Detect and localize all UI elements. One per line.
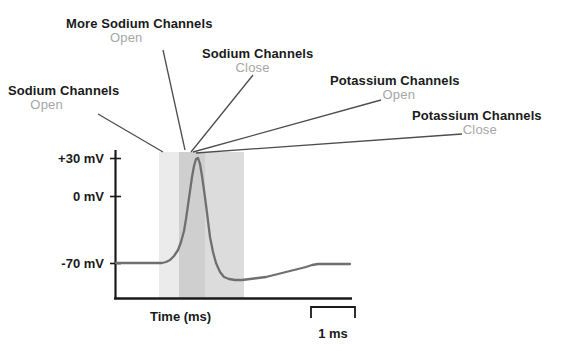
x-axis-title: Time (ms): [150, 309, 211, 324]
callout-potassium-close: Potassium Channels Close: [412, 109, 542, 136]
callout-sodium-close: Sodium Channels Close: [202, 47, 313, 74]
callout-title: Potassium Channels: [412, 109, 542, 123]
callout-state: Open: [330, 88, 460, 102]
leader-line-sodium-open: [98, 114, 163, 152]
callout-state: Open: [8, 98, 119, 112]
callout-title: More Sodium Channels: [66, 17, 212, 31]
leader-line-more-sodium-open: [163, 50, 185, 150]
band-depolarization-onset: [159, 152, 179, 299]
callout-more-sodium-open: More Sodium Channels Open: [66, 17, 212, 44]
y-axis-label-minus70: -70 mV: [18, 256, 104, 271]
y-axis-label-plus30: +30 mV: [18, 151, 104, 166]
callout-state: Close: [412, 123, 542, 137]
action-potential-figure: Sodium Channels Open More Sodium Channel…: [0, 0, 581, 351]
leader-line-potassium-open: [193, 100, 381, 152]
callout-sodium-open: Sodium Channels Open: [8, 84, 119, 111]
leader-line-potassium-close: [196, 134, 462, 153]
callout-title: Sodium Channels: [202, 47, 313, 61]
y-axis-label-zero: 0 mV: [18, 189, 104, 204]
callout-title: Sodium Channels: [8, 84, 119, 98]
callout-title: Potassium Channels: [330, 74, 460, 88]
callout-potassium-open: Potassium Channels Open: [330, 74, 460, 101]
scalebar-label: 1 ms: [305, 326, 361, 341]
scalebar-bracket: [311, 307, 355, 318]
callout-state: Open: [66, 31, 212, 45]
leader-line-sodium-close: [191, 75, 253, 152]
callout-state: Close: [202, 61, 313, 75]
